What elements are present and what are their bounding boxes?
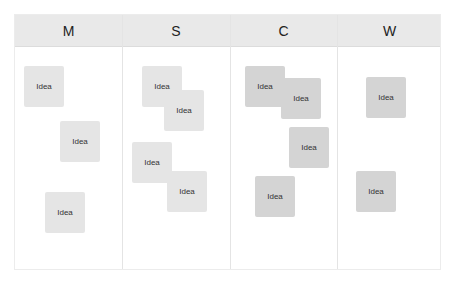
sticky-note[interactable]: Idea: [60, 121, 100, 162]
column-header-w[interactable]: W: [337, 15, 442, 47]
column-header-s[interactable]: S: [122, 15, 230, 47]
column-header-c[interactable]: C: [230, 15, 337, 47]
sticky-note[interactable]: Idea: [366, 77, 406, 118]
column-divider: [122, 15, 123, 269]
whiteboard-canvas: M S C W Idea Idea Idea Idea Idea Idea Id…: [0, 0, 458, 282]
sticky-note[interactable]: Idea: [24, 66, 64, 107]
column-header-row: M S C W: [15, 15, 440, 47]
sticky-note[interactable]: Idea: [255, 176, 295, 217]
sticky-note[interactable]: Idea: [356, 171, 396, 212]
sticky-note[interactable]: Idea: [164, 90, 204, 131]
column-header-m[interactable]: M: [15, 15, 122, 47]
sticky-note[interactable]: Idea: [289, 127, 329, 168]
sticky-note[interactable]: Idea: [45, 192, 85, 233]
sticky-note[interactable]: Idea: [281, 78, 321, 119]
column-divider: [337, 15, 338, 269]
sticky-note[interactable]: Idea: [167, 171, 207, 212]
column-divider: [230, 15, 231, 269]
sticky-note[interactable]: Idea: [132, 142, 172, 183]
sticky-note[interactable]: Idea: [245, 66, 285, 107]
